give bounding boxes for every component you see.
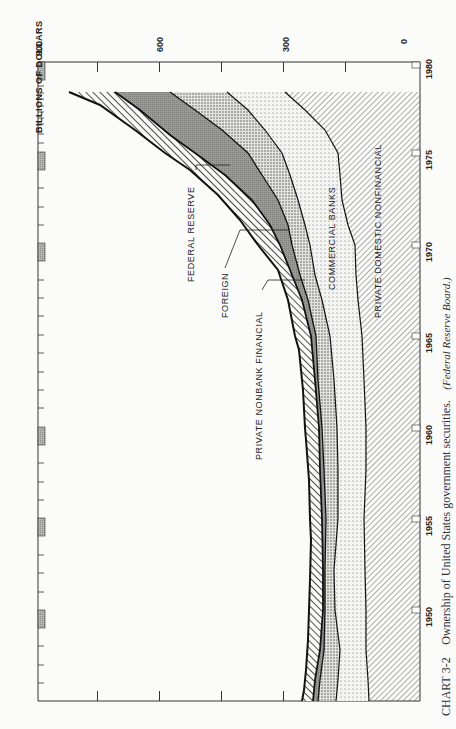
value-tick-600: 600 xyxy=(155,37,165,52)
value-tick-0: 0 xyxy=(399,39,409,44)
caption-text: Ownership of United States government se… xyxy=(439,400,453,645)
caption-number: CHART 3-2 xyxy=(439,657,453,716)
label-private-nonbank-financial: PRIVATE NONBANK FINANCIAL xyxy=(254,311,264,460)
year-label-1955: 1955 xyxy=(424,516,434,536)
year-label-1975: 1975 xyxy=(424,150,434,170)
label-private-domestic-nonfinancial: PRIVATE DOMESTIC NONFINANCIAL xyxy=(373,144,383,318)
year-axis-labels: 1980 1975 1970 1965 1960 1955 1950 xyxy=(424,59,434,627)
figure-caption: CHART 3-2 Ownership of United States gov… xyxy=(436,277,453,716)
year-label-1970: 1970 xyxy=(424,242,434,262)
year-label-1965: 1965 xyxy=(424,333,434,353)
value-tick-300: 300 xyxy=(281,37,291,52)
recession-markers xyxy=(38,62,45,628)
chart-canvas: 900 600 300 0 BILLIONS OF DOLLARS 1980 1… xyxy=(0,0,456,729)
label-foreign: FOREIGN xyxy=(220,273,230,318)
value-axis-title: BILLIONS OF DOLLARS xyxy=(34,21,44,134)
year-label-1960: 1960 xyxy=(424,425,434,445)
year-label-1950: 1950 xyxy=(424,607,434,627)
label-federal-reserve: FEDERAL RESERVE xyxy=(186,186,196,282)
year-label-1980: 1980 xyxy=(424,59,434,79)
year-ticks-left xyxy=(38,86,44,683)
svg-text:CHART 3-2 Ownership of U: CHART 3-2 Ownership of United States gov… xyxy=(436,277,453,716)
caption-source: (Federal Reserve Board.) xyxy=(440,277,453,390)
label-commercial-banks: COMMERCIAL BANKS xyxy=(327,187,337,290)
